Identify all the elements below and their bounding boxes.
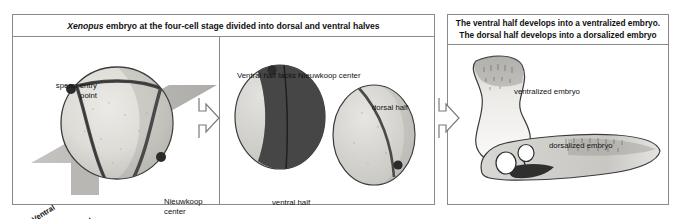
- four-cell-embryo-illustration: [21, 45, 217, 203]
- dorsal-half-nieuwkoop-marker: [393, 160, 402, 169]
- dorsal-plane-label: Dorsal: [69, 216, 94, 219]
- separated-halves-illustration: [222, 43, 434, 203]
- sperm-entry-point-label: sperm entry point: [35, 81, 97, 100]
- right-panel-header: The ventral half develops into a ventral…: [448, 15, 668, 45]
- right-panel: The ventral half develops into a ventral…: [447, 14, 669, 205]
- nieuwkoop-center-marker: [156, 152, 166, 162]
- ventral-half-label: ventral half: [261, 198, 321, 208]
- dorsalized-embryo-label: dorsalized embryo: [549, 141, 639, 151]
- arrow-middle-to-right: [436, 96, 462, 140]
- resulting-embryos-illustration: [450, 47, 668, 203]
- left-panel-header-rest: embryo at the four-cell stage divided in…: [104, 21, 380, 31]
- left-panel-header: Xenopus embryo at the four-cell stage di…: [13, 15, 434, 37]
- dorsalized-embryo-eye-small: [518, 145, 534, 162]
- right-panel-body: ventralized embryo dorsalized embryo: [448, 45, 668, 204]
- halves-subpanel: Ventral half lacks Nieuwkoop center vent…: [220, 37, 436, 204]
- left-panel-header-text: Xenopus embryo at the four-cell stage di…: [67, 21, 379, 31]
- ventralized-embryo-label: ventralized embryo: [514, 87, 604, 97]
- nieuwkoop-center-label: Nieuwkoop center: [164, 197, 220, 216]
- ventral-plane-label: Ventral: [30, 203, 56, 219]
- right-panel-header-line-1: The ventral half develops into a ventral…: [456, 18, 660, 30]
- right-panel-header-line-2: The dorsal half develops into a dorsaliz…: [459, 30, 656, 42]
- dorsal-half-label: dorsal half: [362, 103, 418, 113]
- ventral-half-caption: Ventral half lacks Nieuwkoop center: [237, 71, 397, 81]
- figure-root: Xenopus embryo at the four-cell stage di…: [0, 0, 681, 219]
- left-panel: Xenopus embryo at the four-cell stage di…: [12, 14, 435, 205]
- species-name: Xenopus: [67, 21, 103, 31]
- dorsalized-embryo-eye-large: [496, 152, 516, 174]
- arrow-left-to-middle: [196, 96, 222, 140]
